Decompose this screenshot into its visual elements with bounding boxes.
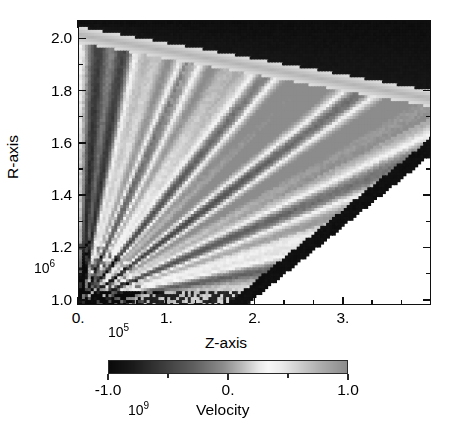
x-tick-minor-top <box>283 20 284 25</box>
y-tick-major-right <box>423 299 431 301</box>
colorbar-tick-label: -1.0 <box>95 381 122 399</box>
colorbar-tick <box>347 374 348 380</box>
y-expo-base: 10 <box>34 260 50 276</box>
y-expo-power: 6 <box>50 258 56 269</box>
x-tick-minor <box>401 300 402 305</box>
y-tick-major <box>78 90 86 92</box>
y-tick-major <box>78 194 86 196</box>
x-tick-minor-top <box>107 20 108 25</box>
x-tick-major <box>165 297 167 305</box>
colorbar-tick-label: 0. <box>222 381 235 399</box>
x-tick-minor-top <box>371 20 372 25</box>
y-tick-minor <box>78 168 83 169</box>
x-tick-minor-top <box>401 20 402 25</box>
y-tick-minor-right <box>426 273 431 274</box>
cb-expo-base: 10 <box>128 402 144 418</box>
x-axis-exponent: 105 <box>108 322 129 340</box>
y-tick-minor <box>78 64 83 65</box>
heatmap-image <box>79 21 431 305</box>
x-tick-minor-top <box>195 20 196 25</box>
y-tick-label: 1.8 <box>30 82 72 100</box>
x-tick-major-top <box>342 20 344 28</box>
colorbar <box>108 360 348 374</box>
x-expo-base: 10 <box>108 324 124 340</box>
colorbar-title: Velocity <box>196 401 249 419</box>
y-tick-major <box>78 142 86 144</box>
x-tick-label: 0. <box>72 309 85 327</box>
x-tick-major <box>254 297 256 305</box>
y-tick-major-right <box>423 194 431 196</box>
x-tick-minor-top <box>313 20 314 25</box>
x-tick-minor <box>283 300 284 305</box>
y-axis-title: R-axis <box>4 122 22 192</box>
y-tick-label: 1.0 <box>30 291 72 309</box>
x-tick-label: 1. <box>160 309 173 327</box>
x-tick-major <box>342 297 344 305</box>
y-tick-minor <box>78 116 83 117</box>
cb-expo-power: 9 <box>144 400 150 411</box>
x-axis-title: Z-axis <box>0 334 452 352</box>
x-tick-minor <box>224 300 225 305</box>
y-tick-label: 1.2 <box>30 238 72 256</box>
colorbar-tick-minor <box>167 374 168 378</box>
y-tick-minor-right <box>426 221 431 222</box>
y-tick-major-right <box>423 142 431 144</box>
colorbar-tick <box>107 374 108 380</box>
y-tick-major <box>78 299 86 301</box>
y-tick-minor <box>78 273 83 274</box>
y-tick-label: 1.4 <box>30 186 72 204</box>
x-tick-major-top <box>165 20 167 28</box>
x-tick-minor <box>136 300 137 305</box>
x-tick-minor-top <box>136 20 137 25</box>
y-tick-major <box>78 38 86 40</box>
colorbar-exponent: 109 <box>128 400 149 418</box>
x-tick-minor <box>195 300 196 305</box>
x-tick-minor <box>371 300 372 305</box>
colorbar-tick-minor <box>287 374 288 378</box>
plot-area <box>78 20 431 305</box>
x-tick-minor <box>107 300 108 305</box>
y-tick-major <box>78 247 86 249</box>
y-tick-label: 2.0 <box>30 29 72 47</box>
colorbar-tick-label: 1.0 <box>337 381 359 399</box>
x-tick-minor <box>313 300 314 305</box>
y-tick-minor-right <box>426 168 431 169</box>
colorbar-tick <box>227 374 228 380</box>
velocity-pseudocolor-figure: R-axis Z-axis 0.1.2.3.2.01.81.61.41.21.0… <box>0 0 452 433</box>
x-tick-major-top <box>254 20 256 28</box>
y-tick-label: 1.6 <box>30 134 72 152</box>
x-tick-major-top <box>77 20 79 28</box>
x-tick-label: 3. <box>336 309 349 327</box>
y-tick-major-right <box>423 90 431 92</box>
y-tick-major-right <box>423 38 431 40</box>
y-axis-exponent: 106 <box>34 258 55 276</box>
x-expo-power: 5 <box>124 322 130 333</box>
y-tick-minor-right <box>426 64 431 65</box>
y-tick-major-right <box>423 247 431 249</box>
y-tick-minor <box>78 221 83 222</box>
y-tick-minor-right <box>426 116 431 117</box>
x-tick-minor-top <box>224 20 225 25</box>
x-tick-label: 2. <box>248 309 261 327</box>
colorbar-gradient <box>109 361 347 373</box>
